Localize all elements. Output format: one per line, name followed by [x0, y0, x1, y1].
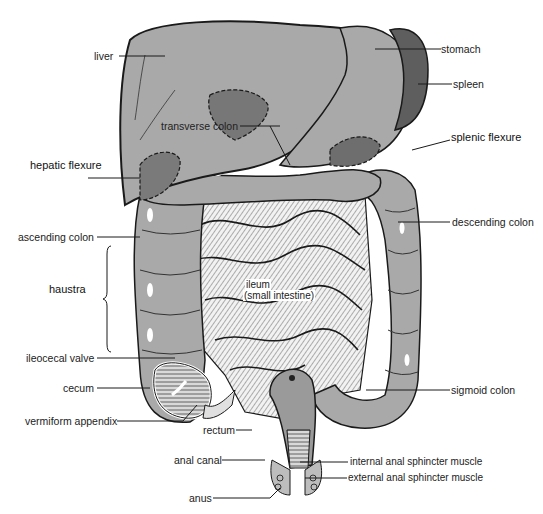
label-anal-canal: anal canal: [174, 454, 222, 466]
label-transverse-colon: transverse colon: [161, 120, 238, 132]
label-liver: liver: [94, 50, 113, 62]
label-hepatic-flexure: hepatic flexure: [30, 159, 102, 171]
label-external-anal-sphincter: external anal sphincter muscle: [348, 472, 483, 484]
label-splenic-flexure: splenic flexure: [451, 131, 521, 143]
label-small-intestine: (small intestine): [243, 290, 315, 301]
label-ileum: ileum: [245, 279, 271, 290]
label-internal-anal-sphincter: internal anal sphincter muscle: [350, 456, 482, 468]
label-stomach: stomach: [441, 43, 481, 55]
label-spleen: spleen: [453, 78, 484, 90]
label-descending-colon: descending colon: [452, 216, 534, 228]
rectum: [270, 369, 316, 468]
label-vermiform-appendix: vermiform appendix: [25, 415, 117, 427]
label-cecum: cecum: [63, 382, 94, 394]
label-ascending-colon: ascending colon: [18, 231, 94, 243]
label-ileocecal-valve: ileocecal valve: [26, 352, 94, 364]
label-haustra: haustra: [49, 283, 86, 295]
label-rectum: rectum: [203, 424, 235, 436]
label-sigmoid-colon: sigmoid colon: [451, 384, 515, 396]
label-anus: anus: [189, 492, 212, 504]
